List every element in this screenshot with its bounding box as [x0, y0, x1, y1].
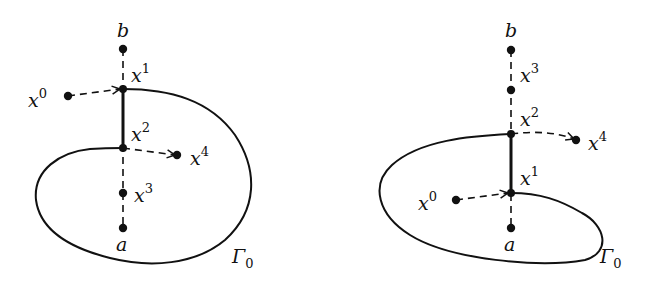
label-x4: x4	[588, 129, 607, 154]
curve-gamma0	[380, 134, 603, 263]
label-x0: x0	[28, 86, 47, 111]
label-a: a	[504, 233, 515, 255]
arrow-x0-to-x1	[68, 89, 120, 96]
label-x1: x1	[520, 164, 539, 189]
point-x4	[572, 136, 580, 144]
point-a	[119, 224, 127, 232]
point-a	[507, 224, 515, 232]
label-x0: x0	[418, 189, 437, 214]
curve-gamma0	[36, 89, 251, 263]
point-x2	[507, 130, 515, 138]
label-b: b	[505, 19, 517, 41]
point-x3	[119, 189, 127, 197]
point-b	[119, 45, 127, 53]
label-b: b	[117, 19, 129, 41]
label-x3: x3	[520, 61, 539, 86]
label-a: a	[116, 233, 127, 255]
label-x2: x2	[520, 105, 539, 130]
point-x0	[64, 92, 72, 100]
point-x1	[119, 85, 127, 93]
label-x2: x2	[131, 120, 150, 145]
left-panel: b a x1 x0 x2 x4 x3 Γ0	[28, 19, 253, 271]
label-x3: x3	[134, 181, 153, 206]
arrow-x2-to-x4	[511, 132, 574, 139]
point-b	[507, 46, 515, 54]
point-x2	[119, 144, 127, 152]
label-x4: x4	[190, 144, 209, 169]
arrow-x2-to-x4	[123, 148, 175, 155]
point-x1	[507, 189, 515, 197]
label-gamma0: Γ0	[599, 245, 621, 271]
point-x0	[452, 196, 460, 204]
point-x3	[507, 86, 515, 94]
label-gamma0: Γ0	[231, 245, 253, 271]
point-x4	[173, 151, 181, 159]
arrow-x0-to-x1	[456, 193, 508, 200]
right-panel: b a x3 x2 x4 x1 x0 Γ0	[380, 19, 622, 271]
label-x1: x1	[131, 61, 150, 86]
figure-canvas: b a x1 x0 x2 x4 x3 Γ0 b	[0, 0, 649, 287]
